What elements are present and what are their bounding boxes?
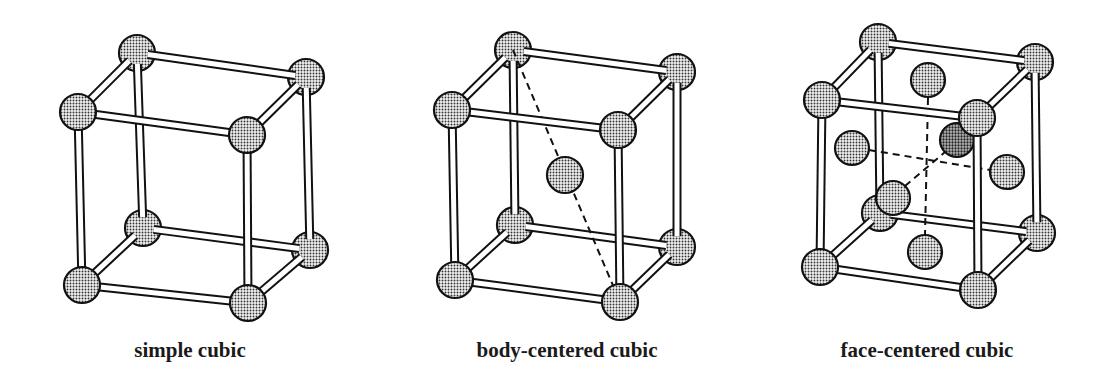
corner-atom-tfl [804,82,840,118]
rod-bfl-bfr [466,281,610,300]
face-centered-cubic-label: face-centered cubic [841,338,1014,362]
rod-tfl-bfl [452,121,455,269]
face-centered-cubic-panel [802,24,1055,308]
rod-tfl-bfl [78,123,82,274]
corner-atom-tfl [434,92,470,128]
rod-tbl-bbl [137,64,142,217]
rod-bfl-bfr [93,286,238,302]
rod-tfl-tfr [463,111,608,128]
right-face-atom [990,155,1024,189]
corner-atom-bfr [960,272,996,308]
rod-bbr-bfr [628,254,669,294]
rod-tbr-bbr [1035,73,1037,222]
rod-bbl-bbr [891,214,1027,231]
rod-bbl-bbr [154,229,300,248]
crystal-lattice-diagram: simple cubic body-centered cubic face-ce… [0,0,1100,388]
rod-tfl-tfr [89,113,237,133]
corner-atom-tfr [229,117,265,153]
rod-bbl-bfl [828,220,872,260]
rod-tbl-tbr [148,55,296,76]
left-face-atom [835,131,869,165]
rod-tbr-tfr [255,85,299,128]
corner-atom-bfl [802,249,838,285]
corner-atom-bfr [602,284,638,320]
rod-bbl-bbr [526,226,667,245]
top-face-atom [911,63,945,97]
rod-tfl-bfl [820,111,822,256]
rod-tbr-tfr [626,80,670,123]
simple-cubic-panel [60,35,328,321]
rod-bbr-bfr [986,241,1029,283]
corner-atom-tfl [60,94,96,130]
simple-cubic-label: simple cubic [134,338,245,362]
rod-bbl-bfl [463,232,507,272]
corner-atom-tfr [959,100,995,136]
body-centered-cubic-panel [434,32,695,320]
rod-tbr-tfr [985,70,1027,111]
rod-tfr-bfr [618,141,620,291]
front-face-atom [876,181,910,215]
rod-tbr-bbr [306,88,310,239]
rod-tbl-tfl [86,61,130,105]
corner-atom-bfr [230,285,266,321]
body-center-atom [547,157,583,193]
rod-tbl-tbr [524,51,667,70]
rod-bbr-bfr [256,257,302,296]
rod-tbl-tfl [460,58,506,103]
rod-tbl-tbr [889,43,1025,60]
rod-tfr-bfr [247,146,248,292]
corner-atom-tfr [600,112,636,148]
body-centered-cubic-label: body-centered cubic [476,338,657,362]
corner-atom-bfl [437,262,473,298]
rod-bfl-bfr [831,269,968,289]
corner-atom-bfl [64,267,100,303]
rod-tfr-bfr [977,129,978,279]
rod-tbl-tfl [830,50,871,92]
bottom-face-atom [908,235,942,269]
rod-tbl-bbl [513,61,515,214]
rod-tfl-tfr [833,101,967,117]
dashed-guide-line [869,150,990,170]
rod-bbl-bfl [90,235,135,277]
rod-tbl-bbl [878,53,880,202]
